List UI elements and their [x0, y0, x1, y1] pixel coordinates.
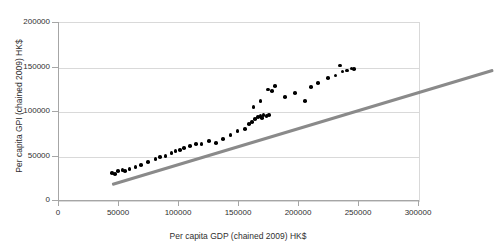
data-point — [174, 149, 178, 153]
x-axis-tick — [118, 201, 119, 206]
x-axis-tick — [418, 201, 419, 206]
gridline-horizontal — [59, 112, 419, 113]
data-point — [236, 129, 240, 133]
data-point — [341, 70, 345, 74]
y-axis-tick-label: 200000 — [2, 18, 50, 26]
data-point — [283, 95, 287, 99]
x-axis-tick — [178, 201, 179, 206]
data-point — [267, 113, 271, 117]
data-point — [316, 81, 320, 85]
y-axis-tick-label: 50000 — [2, 152, 50, 160]
x-axis-tick-label: 200000 — [268, 208, 328, 217]
plot-inner — [59, 23, 419, 201]
data-point — [252, 105, 256, 109]
data-point — [243, 127, 247, 131]
gridline-horizontal — [59, 68, 419, 69]
data-point — [273, 84, 277, 88]
x-axis-title: Per capita GDP (chained 2009) HK$ — [58, 231, 418, 241]
y-axis-tick-label: 150000 — [2, 63, 50, 71]
data-point — [309, 85, 313, 89]
data-point — [188, 144, 192, 148]
x-axis-tick-label: 300000 — [388, 208, 448, 217]
x-axis-tick-label: 250000 — [328, 208, 388, 217]
data-point — [293, 91, 297, 95]
x-axis-tick — [298, 201, 299, 206]
data-point — [164, 154, 168, 158]
data-point — [352, 67, 356, 71]
data-point — [116, 169, 120, 173]
data-point — [158, 155, 162, 159]
data-point — [123, 169, 127, 173]
data-point — [200, 142, 204, 146]
data-point — [334, 74, 338, 78]
data-point — [146, 160, 150, 164]
data-point — [134, 165, 138, 169]
data-point — [128, 167, 132, 171]
data-point — [221, 137, 225, 141]
data-point — [194, 142, 198, 146]
gridline-horizontal — [59, 157, 419, 158]
data-point — [207, 139, 211, 143]
x-axis-tick — [358, 201, 359, 206]
data-point — [259, 99, 263, 103]
x-axis-tick — [58, 201, 59, 206]
data-point — [229, 133, 233, 137]
x-axis-tick-label: 150000 — [208, 208, 268, 217]
data-point — [154, 157, 158, 161]
data-point — [303, 99, 307, 103]
data-point — [270, 89, 274, 93]
y-axis-title: Per capita GPI (chained 2009) HK$ — [14, 31, 24, 181]
data-point — [266, 88, 270, 92]
data-point — [170, 151, 174, 155]
x-axis-tick-label: 50000 — [88, 208, 148, 217]
y-axis-tick-label: 100000 — [2, 107, 50, 115]
y-axis-tick — [52, 22, 58, 23]
y-axis-tick — [52, 67, 58, 68]
data-point — [214, 141, 218, 145]
x-axis-tick-label: 100000 — [148, 208, 208, 217]
data-point — [326, 76, 330, 80]
plot-area — [58, 22, 420, 202]
x-axis-tick — [238, 201, 239, 206]
data-point — [345, 69, 349, 73]
y-axis-tick — [52, 156, 58, 157]
y-axis-tick — [52, 111, 58, 112]
data-point — [182, 146, 186, 150]
y-axis-line — [58, 22, 59, 201]
trendline — [112, 69, 494, 186]
data-point — [139, 163, 143, 167]
y-axis-tick-label: 0 — [2, 196, 50, 204]
chart-title — [0, 0, 441, 2]
data-point — [178, 148, 182, 152]
data-point — [338, 64, 342, 68]
x-axis-tick-label: 0 — [28, 208, 88, 217]
